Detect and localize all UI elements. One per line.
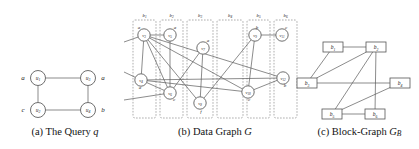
block-graph-node: b6 — [365, 109, 385, 119]
block-graph-node: b1 — [323, 42, 343, 52]
block-graph-panel: b1b2b3b4b5b6 — [0, 0, 419, 128]
block-graph-edge — [375, 52, 376, 109]
block-graph-node: b4 — [390, 78, 410, 88]
block-graph-edge — [335, 52, 372, 109]
caption-block-graph: (c) Block-Graph GB — [300, 126, 419, 138]
figure-container: u1au3au2cu4b (a) The Query q b1b2b3b4b5b… — [0, 0, 419, 149]
caption-block-graph-prefix: (c) — [318, 126, 330, 137]
caption-block-graph-subscript: B — [397, 129, 402, 138]
block-graph-node: b2 — [366, 42, 386, 52]
block-graph-node: b3 — [297, 78, 317, 88]
block-graph-node: b5 — [322, 109, 342, 119]
block-graph-edge — [342, 88, 390, 110]
caption-block-graph-text: Block-Graph — [332, 126, 387, 137]
block-graph-edge — [317, 52, 367, 78]
block-graph-edge — [311, 52, 330, 78]
block-graph-edge-group — [311, 47, 390, 114]
caption-block-graph-symbol: G — [389, 126, 397, 137]
